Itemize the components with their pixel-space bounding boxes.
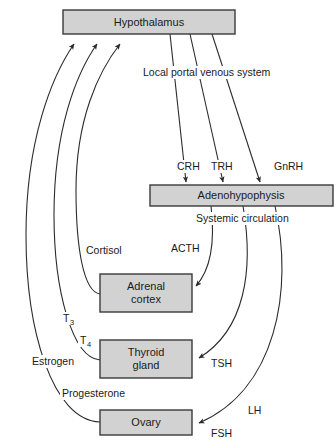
node-adenohypophysis-label: Adenohypophysis [198,189,285,201]
releasing-hormone-labels: CRH TRH GnRH [175,160,305,173]
svg-text:ACTH: ACTH [171,242,200,254]
label-trh: TRH [209,160,235,173]
label-t3: T 3 [61,312,78,327]
node-hypothalamus: Hypothalamus [63,10,235,34]
label-progesterone: Progesterone [60,387,134,400]
svg-text:TSH: TSH [211,357,232,369]
svg-text:Cortisol: Cortisol [86,244,122,256]
node-adrenal-cortex-label-line2: cortex [131,293,161,305]
node-thyroid-gland-label-line2: gland [133,359,160,371]
node-ovary-label: Ovary [131,416,161,428]
node-ovary: Ovary [100,410,192,435]
node-thyroid-gland-label-line1: Thyroid [128,346,165,358]
svg-text:Systemic circulation: Systemic circulation [196,212,289,224]
label-crh: CRH [175,160,201,173]
label-cortisol: Cortisol [84,244,128,257]
label-systemic-circulation: Systemic circulation [194,212,289,225]
svg-text:GnRH: GnRH [274,160,303,172]
systemic-circulation-edges [196,206,282,423]
svg-text:TRH: TRH [211,160,233,172]
edge-lh-fsh [199,206,282,423]
node-adrenal-cortex: Adrenal cortex [100,274,192,312]
node-adrenal-cortex-label-line1: Adrenal [127,280,165,292]
label-lh: LH [246,404,264,417]
node-thyroid-gland: Thyroid gland [100,340,192,378]
label-estrogen: Estrogen [30,355,79,368]
svg-text:LH: LH [248,404,261,416]
edge-tsh [199,206,247,358]
svg-text:Estrogen: Estrogen [32,355,74,367]
svg-text:T: T [63,312,70,324]
label-tsh: TSH [209,357,235,370]
label-gnrh: GnRH [272,160,305,173]
endocrine-feedback-diagram: Hypothalamus Adenohypophysis Adrenal cor… [0,0,336,448]
label-fsh: FSH [209,427,235,440]
node-hypothalamus-label: Hypothalamus [114,16,185,28]
svg-text:T: T [80,334,87,346]
label-acth: ACTH [169,242,201,255]
label-t4: T 4 [78,334,95,349]
label-local-portal-venous-system: Local portal venous system [141,66,274,79]
label-t3-subscript: 3 [70,318,74,327]
node-adenohypophysis: Adenohypophysis [150,185,333,206]
svg-text:CRH: CRH [177,160,200,172]
svg-text:Progesterone: Progesterone [62,387,125,399]
svg-text:FSH: FSH [211,427,232,439]
label-t4-subscript: 4 [87,340,91,349]
svg-text:Local portal venous system: Local portal venous system [143,66,270,78]
